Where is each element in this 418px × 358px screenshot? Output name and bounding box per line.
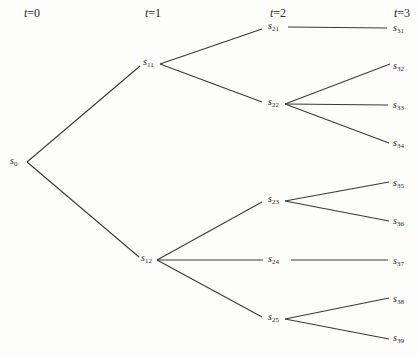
node-subscript: 22 bbox=[272, 101, 279, 109]
node-subscript: 36 bbox=[397, 220, 404, 228]
node-subscript: 32 bbox=[397, 65, 404, 73]
edge-s25-s38 bbox=[285, 298, 389, 319]
node-s0: s0 bbox=[10, 156, 17, 168]
node-subscript: 25 bbox=[272, 316, 279, 324]
tree-edges bbox=[0, 0, 418, 358]
time-value: 1 bbox=[155, 6, 161, 20]
node-subscript: 0 bbox=[14, 160, 18, 168]
node-s23: s23 bbox=[268, 194, 279, 206]
edge-s22-s33 bbox=[285, 104, 388, 105]
node-s38: s38 bbox=[393, 294, 404, 306]
edge-s23-s36 bbox=[285, 201, 389, 221]
node-s12: s12 bbox=[141, 253, 152, 265]
node-subscript: 31 bbox=[397, 27, 404, 35]
node-s22: s22 bbox=[268, 97, 279, 109]
node-s25: s25 bbox=[268, 312, 279, 324]
edge-s12-s23 bbox=[157, 202, 262, 260]
node-s39: s39 bbox=[393, 333, 404, 345]
node-s11: s11 bbox=[143, 57, 154, 69]
edge-s11-s21 bbox=[160, 29, 262, 64]
node-subscript: 34 bbox=[397, 142, 404, 150]
edge-s0-s11 bbox=[27, 66, 140, 162]
node-s33: s33 bbox=[393, 100, 404, 112]
node-s35: s35 bbox=[393, 178, 404, 190]
node-subscript: 11 bbox=[147, 61, 154, 69]
edge-s25-s39 bbox=[285, 319, 389, 339]
node-s31: s31 bbox=[393, 23, 404, 35]
edge-s22-s34 bbox=[285, 104, 389, 143]
time-value: 3 bbox=[404, 6, 410, 20]
node-subscript: 37 bbox=[397, 260, 404, 268]
edge-s0-s12 bbox=[27, 162, 139, 257]
time-label-t1: t=1 bbox=[145, 6, 161, 21]
time-label-t0: t=0 bbox=[24, 6, 40, 21]
node-s37: s37 bbox=[393, 256, 404, 268]
edge-s21-s31 bbox=[288, 27, 387, 28]
edge-s23-s35 bbox=[285, 182, 389, 201]
node-subscript: 23 bbox=[272, 198, 279, 206]
node-subscript: 38 bbox=[397, 298, 404, 306]
node-s36: s36 bbox=[393, 216, 404, 228]
time-label-t3: t=3 bbox=[394, 6, 410, 21]
node-subscript: 21 bbox=[272, 25, 279, 33]
node-subscript: 35 bbox=[397, 182, 404, 190]
node-subscript: 39 bbox=[397, 337, 404, 345]
state-tree-diagram: t=0t=1t=2t=3 s0s11s12s21s22s23s24s25s31s… bbox=[0, 0, 418, 358]
edge-s22-s32 bbox=[285, 64, 390, 104]
node-s34: s34 bbox=[393, 138, 404, 150]
edge-s12-s25 bbox=[157, 260, 262, 317]
node-s32: s32 bbox=[393, 61, 404, 73]
node-s24: s24 bbox=[268, 254, 279, 266]
node-subscript: 24 bbox=[272, 258, 279, 266]
node-subscript: 33 bbox=[397, 104, 404, 112]
time-value: 2 bbox=[280, 6, 286, 20]
edge-s11-s22 bbox=[160, 64, 262, 102]
time-value: 0 bbox=[34, 6, 40, 20]
node-s21: s21 bbox=[268, 21, 279, 33]
node-subscript: 12 bbox=[145, 257, 152, 265]
time-label-t2: t=2 bbox=[270, 6, 286, 21]
